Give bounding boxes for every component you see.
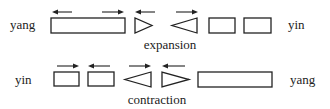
yin-yang-diagram: yang — [0, 0, 330, 109]
triangle-right-shape — [135, 18, 152, 33]
triangle-left-shape — [125, 72, 151, 87]
row2-triangle-left — [125, 64, 151, 88]
expansion-caption: expansion — [144, 37, 197, 52]
expansion-row: yang — [10, 10, 305, 53]
row2-long-rectangle — [198, 72, 272, 87]
arrow-left-icon — [135, 10, 155, 15]
row1-square-2 — [244, 18, 271, 33]
square-shape — [88, 72, 114, 86]
arrow-left-icon — [52, 10, 72, 15]
row1-right-label: yin — [288, 17, 305, 32]
arrow-right-icon — [129, 64, 151, 69]
long-rectangle-shape — [51, 18, 125, 33]
row1-square-1 — [209, 18, 235, 33]
square-shape — [54, 72, 79, 86]
row2-left-label: yin — [15, 72, 32, 87]
arrow-right-icon — [176, 10, 198, 15]
arrow-right-icon — [57, 64, 79, 69]
row1-triangle-left — [172, 10, 198, 34]
arrow-left-icon — [88, 64, 110, 69]
row1-left-label: yang — [10, 17, 36, 32]
triangle-right-shape — [162, 72, 189, 87]
row2-square-2 — [88, 64, 114, 87]
arrow-left-icon — [162, 64, 185, 69]
contraction-row: yin — [15, 64, 316, 108]
row2-triangle-right — [162, 64, 189, 88]
row2-square-1 — [54, 64, 79, 87]
triangle-left-shape — [172, 18, 197, 33]
row1-long-rectangle — [51, 10, 125, 34]
contraction-caption: contraction — [128, 92, 187, 107]
row2-right-label: yang — [290, 72, 316, 87]
arrow-right-icon — [102, 10, 124, 15]
row1-triangle-right — [135, 10, 155, 34]
